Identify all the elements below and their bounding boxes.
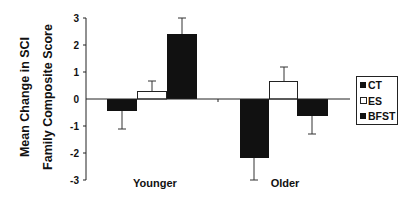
category-label-younger: Younger <box>133 177 178 189</box>
group-older <box>240 67 328 180</box>
y-axis <box>83 18 86 180</box>
y-tick-1: 1 <box>73 67 79 78</box>
bar-es-older <box>270 82 298 100</box>
legend-label-es: ES <box>368 95 382 107</box>
legend-swatch-bfst <box>360 113 366 119</box>
y-tick-neg3: -3 <box>70 175 79 186</box>
y-axis-title-line1: Mean Change in SCI <box>18 37 32 157</box>
y-axis-title-line2: Family Composite Score <box>41 24 55 170</box>
legend-swatch-ct <box>360 82 366 88</box>
bar-bfst-younger <box>167 34 197 99</box>
legend-label-ct: CT <box>368 79 383 91</box>
legend-label-bfst: BFST <box>368 110 396 122</box>
bar-chart: Mean Change in SCI Family Composite Scor… <box>0 0 415 197</box>
bar-bfst-older <box>297 99 328 116</box>
bar-ct-older <box>240 99 269 158</box>
y-tick-2: 2 <box>73 40 79 51</box>
y-tick-neg2: -2 <box>70 148 79 159</box>
bar-ct-younger <box>107 99 137 111</box>
y-tick-labels: 3 2 1 0 -1 -2 -3 <box>70 13 79 186</box>
bar-es-younger <box>138 92 167 100</box>
group-younger <box>107 18 197 129</box>
y-tick-3: 3 <box>73 13 79 24</box>
y-tick-0: 0 <box>73 94 79 105</box>
legend-swatch-es <box>361 98 367 104</box>
legend: CT ES BFST <box>357 77 398 125</box>
y-tick-neg1: -1 <box>70 121 79 132</box>
category-label-older: Older <box>271 177 300 189</box>
